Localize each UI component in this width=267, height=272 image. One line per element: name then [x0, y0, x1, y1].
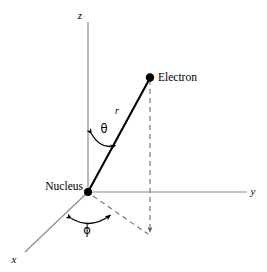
theta-label: θ [100, 122, 107, 136]
figure-background [0, 0, 267, 272]
x-axis-label: x [11, 253, 17, 265]
phi-label: ϕ [83, 223, 91, 237]
y-axis-label: y [250, 185, 256, 197]
nucleus-point-marker [84, 188, 92, 196]
spherical-coordinates-figure: z y x Nucleus Electron r θ ϕ [0, 0, 267, 272]
diagram-canvas: z y x Nucleus Electron r θ ϕ [0, 0, 267, 272]
electron-label: Electron [158, 71, 197, 83]
z-axis-label: z [77, 9, 83, 21]
nucleus-label: Nucleus [45, 180, 83, 192]
radius-label: r [115, 105, 119, 116]
electron-point-marker [146, 73, 154, 81]
